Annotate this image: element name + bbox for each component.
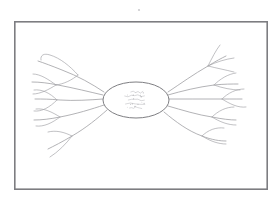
scribble-dot [144, 103, 145, 104]
scribble-dot [142, 102, 143, 103]
scribble-dot [140, 96, 142, 98]
scribble-dot [137, 104, 138, 105]
scribble-dot [127, 107, 128, 108]
scribble-dot [133, 98, 134, 99]
paper-speck [138, 9, 140, 11]
scribble-dot [132, 103, 133, 104]
scribble-dot [133, 95, 134, 96]
scribble-dot [140, 95, 141, 96]
scribble-dot [127, 94, 128, 95]
sketch-illustration [0, 0, 279, 199]
scribble-dot [143, 92, 144, 93]
scribble-dot [134, 106, 136, 108]
scribble-dot [130, 104, 131, 105]
drawing-canvas: Hand-drawn radial mind map illegible han… [0, 0, 279, 199]
scribble-dot [135, 92, 136, 93]
central-node-ellipse[interactable] [103, 82, 169, 118]
